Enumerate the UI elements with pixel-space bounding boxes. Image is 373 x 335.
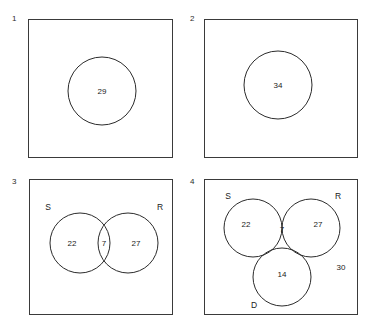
panel-4-label-d: D [251, 300, 257, 310]
panel-3-label-s: S [45, 202, 51, 212]
panel-4-value-r-only: 27 [314, 220, 323, 229]
panel-4: 4 S R D 22 7 27 14 30 [186, 167, 373, 335]
venn-figure: 1 29 2 34 3 S R 22 7 27 4 [0, 0, 373, 335]
panel-4-circle-s [224, 199, 282, 257]
panel-3-value-s-only: 22 [68, 239, 77, 248]
panel-2-value-center: 34 [274, 81, 283, 90]
panel-3-circle-r [98, 213, 158, 273]
panel-2-svg: 34 [186, 0, 373, 167]
panel-4-svg: S R D 22 7 27 14 30 [186, 167, 373, 335]
panel-3-value-r-only: 27 [132, 239, 141, 248]
panel-4-value-d-only: 14 [278, 270, 287, 279]
panel-3-svg: S R 22 7 27 [0, 167, 186, 335]
panel-4-value-outside: 30 [337, 263, 346, 272]
panel-1: 1 29 [0, 0, 186, 167]
panel-1-value-center: 29 [98, 87, 107, 96]
panel-1-svg: 29 [0, 0, 186, 167]
panel-4-circle-r [282, 199, 340, 257]
panel-3: 3 S R 22 7 27 [0, 167, 186, 335]
panel-4-label-s: S [225, 191, 231, 201]
panel-4-value-s-only: 22 [242, 220, 251, 229]
panel-2: 2 34 [186, 0, 373, 167]
panel-3-value-both: 7 [102, 239, 107, 248]
panel-4-label-r: R [335, 191, 341, 201]
panel-3-label-r: R [157, 202, 163, 212]
panel-4-value-both: 7 [280, 225, 285, 234]
